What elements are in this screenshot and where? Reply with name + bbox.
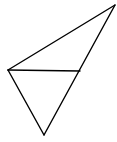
segment-BD — [8, 70, 80, 71]
segment-BC — [8, 70, 44, 135]
diagram-segments — [8, 5, 115, 135]
triangle-diagram — [0, 0, 117, 142]
segment-AB — [8, 5, 115, 70]
